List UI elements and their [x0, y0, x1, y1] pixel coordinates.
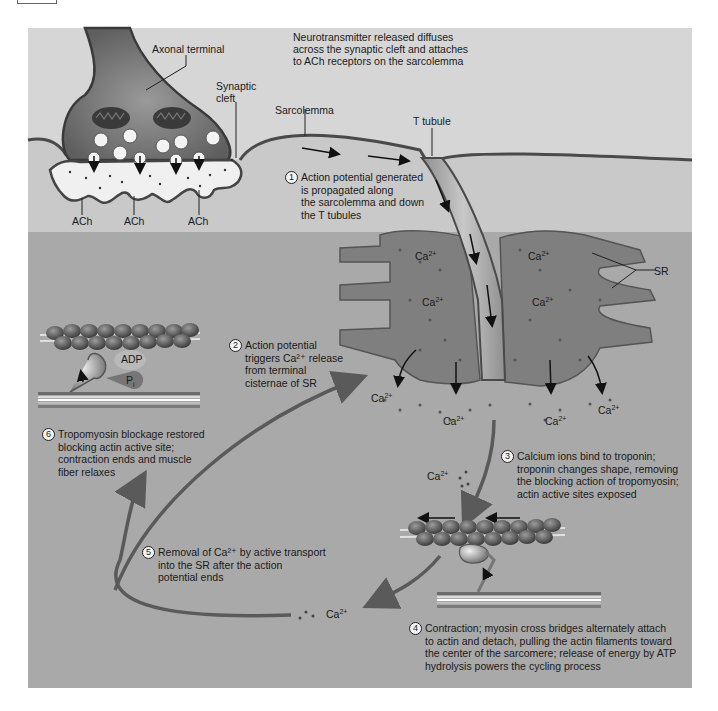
thick-filament-relaxed	[38, 392, 200, 408]
step-number-badge: 4	[409, 622, 422, 635]
label-calcium: Ca2+	[326, 608, 347, 621]
label-calcium: Ca2+	[427, 470, 448, 483]
myosin-head-attached	[459, 545, 488, 564]
step-number-badge: 1	[285, 171, 298, 184]
label-calcium: Ca2+	[371, 392, 392, 405]
step-1: 1 Action potential generated is propagat…	[301, 171, 424, 221]
step-3: 3 Calcium ions bind to troponin; troponi…	[517, 450, 679, 500]
label-calcium: Ca2+	[598, 404, 619, 417]
thick-filament-contracting	[437, 592, 601, 608]
label-ach: ACh	[72, 215, 92, 228]
neurotransmitter-note-line: across the synaptic cleft and attaches	[293, 43, 468, 56]
label-pi: Pi	[126, 374, 135, 392]
label-synaptic-cleft-1: Synaptic	[216, 80, 256, 93]
label-ach: ACh	[188, 215, 208, 228]
label-synaptic-cleft-2: cleft	[216, 92, 235, 105]
step-2: 2 Action potential triggers Ca²⁺ release…	[245, 339, 343, 389]
neurotransmitter-note-line: Neurotransmitter released diffuses	[293, 31, 453, 44]
label-t-tubule: T tubule	[413, 115, 451, 128]
label-calcium: Ca2+	[415, 250, 436, 263]
neurotransmitter-note-line: to ACh receptors on the sarcolemma	[293, 55, 463, 68]
label-sr: SR	[654, 265, 669, 278]
step-number-badge: 6	[42, 428, 55, 441]
label-axonal-terminal: Axonal terminal	[152, 43, 224, 56]
step-5: 5 Removal of Ca²⁺ by active transport in…	[158, 546, 326, 584]
step-number-badge: 5	[142, 546, 155, 559]
label-calcium: Ca2+	[443, 415, 464, 428]
step-6: 6 Tropomyosin blockage restored blocking…	[58, 428, 205, 478]
label-ach: ACh	[124, 215, 144, 228]
label-sarcolemma: Sarcolemma	[275, 104, 334, 117]
label-calcium: Ca2+	[528, 250, 549, 263]
step-4: 4 Contraction; myosin cross bridges alte…	[425, 622, 676, 672]
step-number-badge: 2	[229, 339, 242, 352]
label-calcium: Ca2+	[545, 415, 566, 428]
step-number-badge: 3	[501, 450, 514, 463]
label-calcium: Ca2+	[532, 296, 553, 309]
diagram-canvas	[0, 0, 718, 711]
label-adp: ADP	[121, 353, 143, 366]
label-calcium: Ca2+	[422, 296, 443, 309]
